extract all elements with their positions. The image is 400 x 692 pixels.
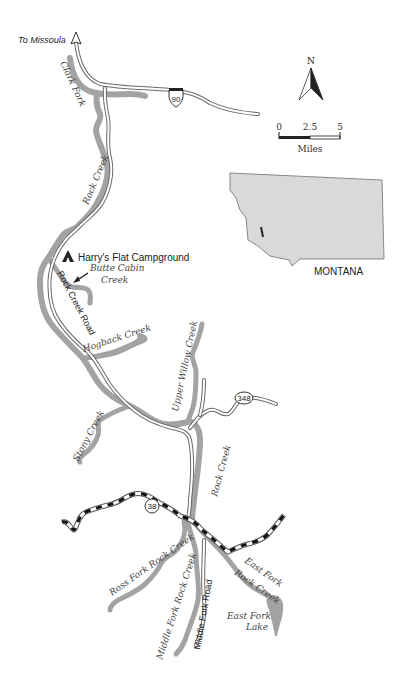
scale-tick-0: 0	[276, 122, 282, 132]
montana-state-shape	[230, 173, 384, 266]
east-fork-lake-label-2: Lake	[245, 622, 268, 632]
to-missoula-label: To Missoula	[18, 35, 66, 45]
interstate-90-label: 90	[172, 95, 181, 104]
scale-tick-mid: 2.5	[303, 122, 318, 132]
interstate-90-road	[76, 42, 258, 114]
rock-creek-lower-label: Rock Creek	[209, 444, 233, 499]
east-fork-lake-label-1: East Fork	[226, 611, 271, 621]
rock-creek-map: To Missoula 90 348 38 N 0 2.5 5 Miles MO…	[0, 0, 400, 692]
north-arrow-icon: N	[299, 56, 323, 100]
butte-cabin-label-1: Butte Cabin	[89, 263, 145, 273]
rock-creek-river	[40, 94, 200, 520]
campground-marker: Harry's Flat Campground	[62, 250, 189, 263]
route-348-label: 348	[237, 394, 251, 403]
scale-unit: Miles	[298, 144, 323, 154]
north-label: N	[307, 56, 315, 66]
stony-creek-label: Stony Creek	[71, 409, 106, 463]
butte-cabin-pointer-arrow-icon	[73, 273, 88, 283]
montana-inset: MONTANA	[230, 173, 384, 277]
butte-cabin-label-2: Creek	[101, 275, 128, 285]
route-38-shield-icon: 38	[145, 499, 159, 513]
route-348-road	[190, 380, 276, 428]
montana-label: MONTANA	[314, 266, 364, 277]
route-348-shield-icon: 348	[235, 392, 253, 404]
rock-creek-road	[49, 88, 192, 520]
campground-label: Harry's Flat Campground	[78, 252, 189, 263]
route-38-label: 38	[148, 502, 157, 511]
map-canvas: To Missoula 90 348 38 N 0 2.5 5 Miles MO…	[0, 0, 400, 692]
scale-bar: 0 2.5 5 Miles	[276, 122, 343, 154]
interstate-shield-icon: 90	[169, 88, 183, 107]
to-missoula-arrow-icon	[71, 32, 81, 44]
scale-tick-end: 5	[337, 122, 343, 132]
